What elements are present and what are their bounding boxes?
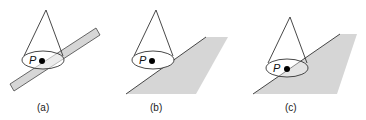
cone-left-edge xyxy=(24,10,46,56)
point-p xyxy=(149,58,155,64)
point-label: P xyxy=(29,54,37,66)
panel-c: P (c) xyxy=(253,17,357,113)
panel-a: P (a) xyxy=(10,10,100,113)
cone-left-edge xyxy=(134,10,156,56)
point-p xyxy=(284,66,290,72)
caption-b: (b) xyxy=(150,102,162,113)
panel-b: P (b) xyxy=(126,10,228,113)
cone-right-edge xyxy=(290,17,307,63)
point-label: P xyxy=(139,54,147,66)
point-label: P xyxy=(273,62,281,74)
figure: P (a) P (b) P (c) xyxy=(0,0,366,120)
caption-a: (a) xyxy=(37,102,49,113)
cone-right-edge xyxy=(156,10,173,56)
point-p xyxy=(39,58,45,64)
caption-c: (c) xyxy=(285,102,297,113)
cone-right-edge xyxy=(46,10,63,56)
cone-left-edge xyxy=(268,17,290,63)
